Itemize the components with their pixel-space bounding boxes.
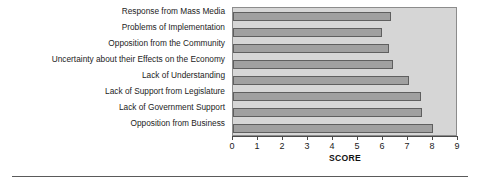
x-axis-line [232, 136, 458, 137]
category-label: Opposition from the Community [0, 39, 225, 48]
bar [233, 124, 433, 133]
category-axis: Response from Mass Media Problems of Imp… [0, 7, 228, 136]
x-tick-mark [282, 136, 283, 140]
bar [233, 12, 391, 21]
x-tick-mark [232, 136, 233, 140]
x-axis-title: SCORE [232, 153, 458, 163]
category-label: Problems of Implementation [0, 23, 225, 32]
x-tick-mark [332, 136, 333, 140]
bar [233, 108, 422, 117]
bar-chart-figure: Response from Mass Media Problems of Imp… [0, 0, 480, 184]
x-tick-mark [357, 136, 358, 140]
x-tick-label: 5 [349, 141, 365, 152]
category-label: Response from Mass Media [0, 7, 225, 16]
bar [233, 44, 389, 53]
x-tick-mark [432, 136, 433, 140]
x-tick-label: 9 [449, 141, 465, 152]
x-tick-label: 7 [399, 141, 415, 152]
x-tick-label: 1 [249, 141, 265, 152]
x-tick-mark [257, 136, 258, 140]
category-label: Uncertainty about their Effects on the E… [0, 55, 225, 64]
category-label: Lack of Support from Legislature [0, 87, 225, 96]
bar [233, 60, 393, 69]
x-tick-label: 8 [424, 141, 440, 152]
x-tick-label: 4 [324, 141, 340, 152]
plot-area [232, 7, 457, 136]
category-label: Lack of Understanding [0, 71, 225, 80]
x-tick-label: 0 [224, 141, 240, 152]
x-tick-mark [382, 136, 383, 140]
x-tick-label: 2 [274, 141, 290, 152]
x-tick-mark [307, 136, 308, 140]
bar [233, 92, 421, 101]
category-label: Opposition from Business [0, 119, 225, 128]
x-tick-label: 6 [374, 141, 390, 152]
category-label: Lack of Government Support [0, 103, 225, 112]
bar [233, 76, 409, 85]
x-tick-label: 3 [299, 141, 315, 152]
x-tick-mark [407, 136, 408, 140]
horizontal-rule [12, 176, 468, 177]
x-tick-mark [457, 136, 458, 140]
bar [233, 28, 382, 37]
